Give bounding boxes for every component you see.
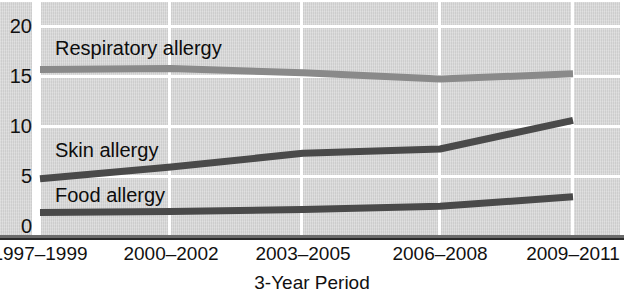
y-tick-label-15: 15 [2, 66, 32, 86]
y-tick-label-10: 10 [2, 116, 32, 136]
series-label-respiratory-allergy: Respiratory allergy [55, 38, 222, 58]
x-axis-rule [0, 238, 624, 240]
y-tick-label-0: 0 [2, 216, 32, 236]
x-tick-label-2003-2005: 2003–2005 [223, 243, 383, 265]
x-tick-label-2009-2011: 2009–2011 [493, 243, 624, 265]
y-tick-label-5: 5 [2, 166, 32, 186]
series-label-food-allergy: Food allergy [55, 185, 165, 205]
series-label-skin-allergy: Skin allergy [55, 140, 158, 160]
y-tick-label-20: 20 [2, 16, 32, 36]
series-line-respiratory-allergy [40, 69, 573, 80]
allergy-prevalence-line-chart: 20 15 10 5 0 Respiratory allergy Skin al… [0, 0, 624, 306]
x-axis-title: 3-Year Period [0, 272, 624, 294]
